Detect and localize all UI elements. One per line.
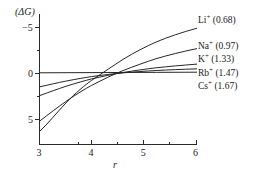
- y-tick-label-minus5: −5: [22, 23, 33, 33]
- legend-radius-k: (1.33): [211, 54, 234, 64]
- legend-charge-rb: +: [209, 65, 213, 73]
- curve-rb: [40, 69, 197, 87]
- x-axis-ticks: [40, 140, 197, 145]
- y-tick-label-plus5: 5: [28, 115, 33, 125]
- y-tick-label-zero: 0: [28, 69, 33, 79]
- curve-k: [40, 64, 197, 96]
- curve-na: [40, 49, 197, 121]
- legend-item-cs: Cs+ (1.67): [198, 80, 258, 93]
- legend-charge-k: +: [205, 52, 209, 60]
- x-tick-label-3: 3: [37, 148, 42, 158]
- legend-item-k: K+ (1.33): [198, 53, 258, 66]
- legend-radius-cs: (1.67): [214, 81, 237, 91]
- x-tick-label-4: 4: [89, 148, 94, 158]
- legend-radius-li: (0.68): [213, 15, 236, 25]
- legend-ion-rb: Rb: [198, 68, 209, 78]
- legend-radius-na: (0.97): [215, 41, 238, 51]
- legend-ion-na: Na: [198, 41, 209, 51]
- legend-charge-li: +: [206, 13, 210, 21]
- legend-item-rb: Rb+ (1.47): [198, 67, 258, 80]
- curve-group: [40, 29, 197, 132]
- legend-charge-cs: +: [208, 79, 212, 87]
- y-axis-ticks: [35, 28, 40, 120]
- legend-radius-rb: (1.47): [215, 68, 238, 78]
- x-tick-label-6: 6: [193, 148, 198, 158]
- legend-leader-lines: [196, 28, 197, 72]
- legend-item-li: Li+ (0.68): [198, 14, 258, 27]
- x-axis-title: r: [113, 160, 117, 170]
- x-tick-label-5: 5: [141, 148, 146, 158]
- y-axis-title: (ΔG): [15, 7, 35, 17]
- chart-figure: (ΔG) −5 0 5 3 4 5 6 r Li+ (0.68) Na+ (0.…: [0, 0, 258, 172]
- curve-li: [40, 29, 197, 132]
- curve-cs: [40, 72, 197, 73]
- legend-charge-na: +: [209, 39, 213, 47]
- legend-ion-cs: Cs: [198, 81, 208, 91]
- legend-ion-k: K: [198, 54, 205, 64]
- axis-group: [40, 14, 197, 145]
- legend: Li+ (0.68) Na+ (0.97) K+ (1.33) Rb+ (1.4…: [198, 14, 258, 93]
